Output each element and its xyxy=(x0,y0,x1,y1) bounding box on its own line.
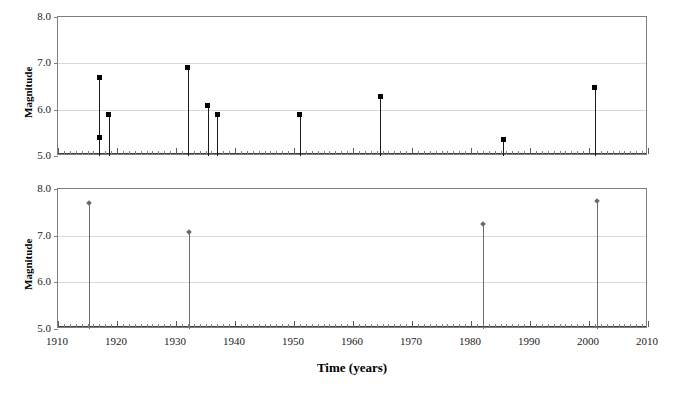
x-tick-minor xyxy=(194,151,195,154)
x-tick-label: 1960 xyxy=(329,336,375,347)
x-tick-minor xyxy=(276,324,277,327)
x-tick-minor xyxy=(170,324,171,327)
x-tick-label: 1940 xyxy=(211,336,257,347)
x-tick-major xyxy=(294,321,295,327)
x-tick-minor xyxy=(619,151,620,154)
x-tick-minor xyxy=(577,151,578,154)
y-tick-mark xyxy=(54,329,58,330)
gridline-y xyxy=(58,63,646,64)
x-tick-minor xyxy=(229,151,230,154)
x-tick-minor xyxy=(170,151,171,154)
x-tick-label: 1970 xyxy=(388,336,434,347)
x-tick-minor xyxy=(141,151,142,154)
x-tick-minor xyxy=(347,324,348,327)
x-tick-minor xyxy=(418,151,419,154)
x-tick-minor xyxy=(400,151,401,154)
x-tick-minor xyxy=(489,151,490,154)
x-tick-minor xyxy=(383,324,384,327)
x-tick-minor xyxy=(82,151,83,154)
x-tick-minor xyxy=(82,324,83,327)
data-point-marker xyxy=(480,221,486,227)
x-tick-minor xyxy=(347,151,348,154)
x-tick-minor xyxy=(518,151,519,154)
x-tick-minor xyxy=(259,151,260,154)
data-point-marker xyxy=(97,75,102,80)
data-point-marker xyxy=(501,137,506,142)
x-tick-minor xyxy=(548,151,549,154)
x-tick-minor xyxy=(636,151,637,154)
x-tick-major xyxy=(648,321,649,327)
x-tick-minor xyxy=(359,151,360,154)
x-tick-major xyxy=(530,148,531,154)
x-tick-minor xyxy=(341,324,342,327)
x-tick-minor xyxy=(182,324,183,327)
x-tick-minor xyxy=(383,151,384,154)
x-tick-minor xyxy=(447,324,448,327)
x-tick-minor xyxy=(147,324,148,327)
data-stem xyxy=(208,105,209,156)
x-tick-minor xyxy=(495,324,496,327)
x-tick-major xyxy=(471,321,472,327)
x-tick-minor xyxy=(636,324,637,327)
x-tick-minor xyxy=(247,151,248,154)
x-tick-minor xyxy=(601,151,602,154)
x-tick-label: 1930 xyxy=(152,336,198,347)
x-tick-minor xyxy=(613,324,614,327)
data-point-marker xyxy=(97,135,102,140)
x-tick-minor xyxy=(152,151,153,154)
y-tick-mark xyxy=(54,17,58,18)
x-tick-major xyxy=(471,148,472,154)
x-tick-minor xyxy=(477,324,478,327)
x-tick-minor xyxy=(565,151,566,154)
x-tick-minor xyxy=(253,151,254,154)
figure-canvas: Magnitude Volcanic Chain 5.06.07.08.0 Ma… xyxy=(0,0,673,393)
data-point-marker xyxy=(378,94,383,99)
x-tick-minor xyxy=(459,151,460,154)
x-tick-minor xyxy=(265,151,266,154)
x-tick-minor xyxy=(129,151,130,154)
x-tick-minor xyxy=(164,324,165,327)
x-tick-minor xyxy=(329,151,330,154)
x-tick-minor xyxy=(447,151,448,154)
x-tick-minor xyxy=(259,324,260,327)
x-tick-minor xyxy=(424,151,425,154)
x-tick-minor xyxy=(324,324,325,327)
x-tick-minor xyxy=(318,151,319,154)
x-tick-minor xyxy=(542,151,543,154)
x-tick-minor xyxy=(642,324,643,327)
x-tick-minor xyxy=(477,151,478,154)
x-tick-minor xyxy=(312,324,313,327)
x-tick-minor xyxy=(152,324,153,327)
x-tick-major xyxy=(58,148,59,154)
x-tick-minor xyxy=(123,151,124,154)
x-tick-minor xyxy=(217,324,218,327)
x-tick-minor xyxy=(135,324,136,327)
data-point-marker xyxy=(297,112,302,117)
x-tick-minor xyxy=(512,324,513,327)
x-tick-minor xyxy=(88,151,89,154)
x-tick-minor xyxy=(76,151,77,154)
data-stem xyxy=(109,114,110,156)
x-tick-minor xyxy=(430,324,431,327)
x-tick-minor xyxy=(141,324,142,327)
x-tick-label: 1990 xyxy=(506,336,552,347)
x-tick-minor xyxy=(465,324,466,327)
x-tick-minor xyxy=(583,151,584,154)
data-stem xyxy=(483,224,484,329)
x-tick-major xyxy=(176,148,177,154)
data-stem xyxy=(380,97,381,156)
x-tick-minor xyxy=(182,151,183,154)
x-tick-label: 1980 xyxy=(447,336,493,347)
x-tick-minor xyxy=(571,151,572,154)
x-tick-minor xyxy=(223,324,224,327)
x-tick-minor xyxy=(211,151,212,154)
plot-area-volcanic-chain xyxy=(57,16,647,155)
x-tick-label: 1910 xyxy=(34,336,80,347)
x-tick-minor xyxy=(501,151,502,154)
x-tick-minor xyxy=(211,324,212,327)
y-tick-mark xyxy=(54,282,58,283)
y-tick-label: 5.0 xyxy=(11,150,51,161)
x-tick-minor xyxy=(554,151,555,154)
x-tick-minor xyxy=(501,324,502,327)
x-tick-minor xyxy=(536,324,537,327)
